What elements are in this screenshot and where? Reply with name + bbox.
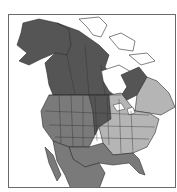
western-usa-region: [41, 95, 95, 147]
map-title: [0, 0, 177, 5]
range-map: [8, 14, 176, 188]
north-america-map: [9, 15, 176, 188]
